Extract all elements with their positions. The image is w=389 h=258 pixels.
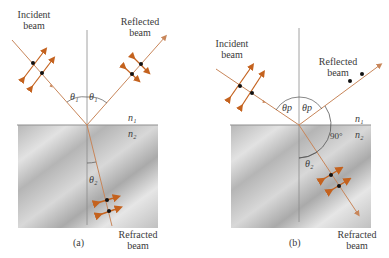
angle-label-reflected-a: θ₁ [89,91,97,102]
incident-beam-b [216,69,299,125]
polarization-diagram [0,0,389,258]
polarization-dot-icon [130,72,134,76]
angle-label-90-b: 90° [330,131,343,142]
medium-n2-b [231,125,371,228]
medium-n2-a [18,125,158,228]
polarization-dot-icon [139,62,143,66]
reflected-label-a: Reflected beam [112,16,168,38]
refracted-label-line2: beam [331,240,383,251]
medium-label-n2-a: n₂ [128,128,136,139]
angle-label-incident-a: θ₁ [70,91,78,102]
refracted-label-line1: Refracted [331,229,383,240]
angle-label-refracted-a: θ₂ [89,174,97,185]
refracted-label-b: Refracted beam [331,229,383,251]
refracted-label-line1: Refracted [112,229,164,240]
incident-direction-icon-b [263,100,267,103]
incident-label-line1: Incident [10,9,58,20]
polarization-dot-icon [40,71,44,75]
angle-label-refracted-b: θ₂ [305,158,313,169]
refracted-label-a: Refracted beam [112,229,164,251]
polarization-dot-icon [31,61,35,65]
reflected-beam-a [87,37,165,125]
panel-a [12,30,165,228]
polarization-dot-icon [329,173,333,177]
reflected-label-line1: Reflected [310,56,366,67]
incident-label-line1: Incident [208,38,256,49]
incident-beam-a [12,40,87,125]
polarization-dot-icon [337,184,341,188]
reflected-label-line2: beam [112,27,168,38]
angle-label-incident-b: θp [282,102,292,113]
polarization-dot-icon [348,79,352,83]
polarization-arrow-icon [241,73,263,107]
reflected-label-line2: beam [310,67,366,78]
incident-label-a: Incident beam [10,9,58,31]
reflected-label-line1: Reflected [112,16,168,27]
medium-label-n1-a: n₁ [128,112,136,123]
polarization-dot-icon [105,198,109,202]
medium-label-n1-b: n₁ [355,113,363,124]
refracted-label-line2: beam [112,240,164,251]
incident-label-b: Incident beam [208,38,256,60]
polarization-arrow-icon [229,66,252,99]
reflected-label-b: Reflected beam [310,56,366,78]
medium-label-n2-b: n₂ [355,129,363,140]
polarization-dot-icon [250,91,254,95]
incident-label-line2: beam [10,20,58,31]
polarization-dot-icon [238,84,242,88]
angle-label-reflected-b: θp [302,102,312,113]
caption-b: (b) [289,237,301,248]
incident-label-line2: beam [208,49,256,60]
polarization-dot-icon [107,209,111,213]
caption-a: (a) [73,237,84,248]
